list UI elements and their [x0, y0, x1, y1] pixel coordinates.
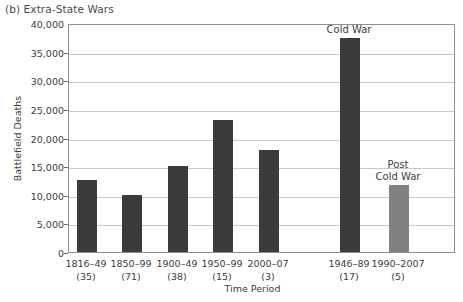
x-tick-count: (3): [228, 270, 308, 283]
chart-figure: (b) Extra-State Wars Battlefield Deaths …: [0, 0, 463, 302]
y-axis-tick-label: 15,000: [18, 162, 64, 173]
bar: [340, 38, 360, 252]
x-axis-tick-label: 2000–07(3): [228, 257, 308, 283]
plot-area: [68, 24, 455, 253]
bar-annotation-line: Cold War: [348, 171, 448, 183]
y-axis-tick-label: 30,000: [18, 76, 64, 87]
bar: [122, 195, 142, 252]
x-tick-range: 1990–2007: [371, 258, 424, 269]
x-axis-label-text: Time Period: [225, 283, 281, 294]
y-axis-tick-label: 35,000: [18, 47, 64, 58]
gridline: [69, 82, 454, 83]
bar: [213, 120, 233, 252]
bar-annotation: Cold War: [299, 24, 399, 36]
y-axis-tick-mark: [64, 253, 68, 254]
gridline: [69, 54, 454, 55]
bar: [77, 180, 97, 252]
y-axis-tick-label: 40,000: [18, 19, 64, 30]
x-axis-tick-label: 1990–2007(5): [358, 257, 438, 283]
y-axis-tick-label: 25,000: [18, 104, 64, 115]
bar-annotation-line: Cold War: [299, 24, 399, 36]
x-tick-count: (5): [358, 270, 438, 283]
x-tick-range: 2000–07: [247, 258, 288, 269]
bar-annotation: PostCold War: [348, 159, 448, 182]
bar: [259, 150, 279, 252]
gridline: [69, 111, 454, 112]
y-axis-tick-label: 10,000: [18, 190, 64, 201]
y-axis-tick-label: 5,000: [18, 219, 64, 230]
bar: [168, 166, 188, 252]
bar: [389, 185, 409, 252]
gridline: [69, 140, 454, 141]
x-axis-label: Time Period: [0, 283, 463, 294]
bar-annotation-line: Post: [348, 159, 448, 171]
y-axis-tick-label: 20,000: [18, 133, 64, 144]
